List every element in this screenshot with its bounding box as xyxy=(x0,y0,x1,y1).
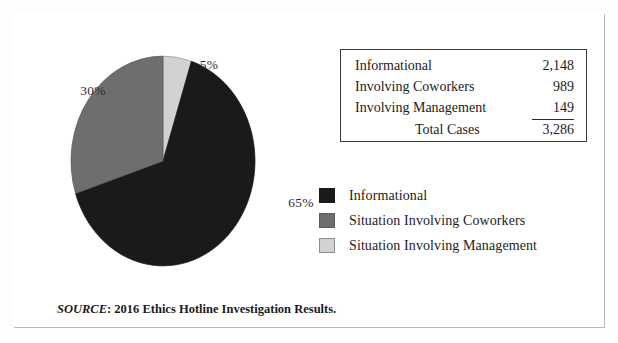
legend-item-informational: Informational xyxy=(319,183,609,208)
table-cell-label: Informational xyxy=(355,55,532,76)
table-row: Informational 2,148 xyxy=(355,55,574,76)
table-cell-label: Involving Management xyxy=(355,98,532,120)
data-table-grid: Informational 2,148 Involving Coworkers … xyxy=(355,55,574,141)
table-cell-total-value: 3,286 xyxy=(532,119,574,141)
table-row: Involving Coworkers 989 xyxy=(355,76,574,97)
legend-item-coworkers: Situation Involving Coworkers xyxy=(319,208,609,233)
table-cell-value: 2,148 xyxy=(532,55,574,76)
source-label: SOURCE xyxy=(57,302,107,316)
table-cell-total-label: Total Cases xyxy=(355,119,532,141)
table-cell-value: 989 xyxy=(532,76,574,97)
source-note: SOURCE: 2016 Ethics Hotline Investigatio… xyxy=(57,302,336,317)
pie-chart: 5% 30% 65% xyxy=(43,33,313,283)
legend-label: Situation Involving Coworkers xyxy=(349,213,525,229)
pie-chart-svg xyxy=(43,33,313,283)
legend-label: Situation Involving Management xyxy=(349,238,537,254)
figure-root: 5% 30% 65% Informational 2,148 Involving… xyxy=(0,0,618,343)
pie-label-management: 5% xyxy=(183,57,235,73)
table-cell-label: Involving Coworkers xyxy=(355,76,532,97)
source-text: : 2016 Ethics Hotline Investigation Resu… xyxy=(107,302,336,316)
table-cell-value: 149 xyxy=(532,98,574,120)
legend-swatch-icon xyxy=(319,213,335,228)
table-row: Involving Management 149 xyxy=(355,98,574,120)
figure-frame: 5% 30% 65% Informational 2,148 Involving… xyxy=(13,13,604,327)
pie-label-coworkers: 30% xyxy=(67,83,119,99)
data-table: Informational 2,148 Involving Coworkers … xyxy=(340,49,587,142)
legend: Informational Situation Involving Cowork… xyxy=(319,183,609,258)
legend-swatch-icon xyxy=(319,188,335,203)
legend-item-management: Situation Involving Management xyxy=(319,233,609,258)
table-row-total: Total Cases 3,286 xyxy=(355,119,574,141)
legend-label: Informational xyxy=(349,188,427,204)
legend-swatch-icon xyxy=(319,238,335,253)
